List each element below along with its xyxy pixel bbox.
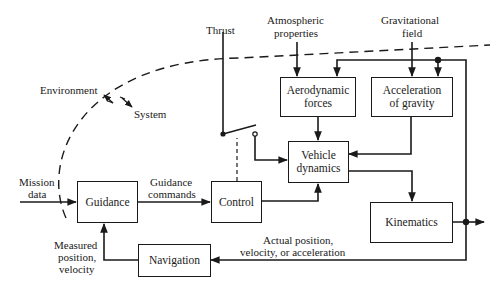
guidance-block-label: Guidance — [85, 196, 129, 209]
atmospheric-label-2: properties — [274, 27, 318, 40]
guidance-commands-label-1: Guidance — [150, 176, 192, 189]
mission-label-1: Mission — [19, 176, 54, 189]
system-arrow — [122, 98, 132, 107]
measured-state-arrow — [104, 224, 138, 260]
aerodynamic-forces-block: Aerodynamic forces — [280, 77, 356, 117]
gravity-to-vehicle-arrow — [349, 117, 411, 154]
mission-label-2: data — [28, 188, 46, 201]
vehicle-dynamics-block: Vehicle dynamics — [288, 141, 349, 183]
vehicle-to-kinematics-arrow — [348, 171, 412, 201]
control-block-label: Control — [219, 196, 254, 209]
thrust-to-vehicle-arrow — [255, 136, 287, 160]
gravitational-label-1: Gravitational — [381, 14, 439, 27]
kinematics-label: Kinematics — [385, 216, 437, 229]
environment-label: Environment — [40, 84, 97, 97]
navigation-block: Navigation — [138, 244, 211, 277]
control-to-vehicle-arrow — [262, 184, 318, 201]
actual-state-label-2: velocity, or acceleration — [240, 246, 345, 259]
control-block: Control — [211, 181, 262, 223]
measured-label-3: velocity — [59, 263, 94, 276]
acceleration-of-gravity-label: Acceleration of gravity — [378, 84, 446, 110]
actual-state-label-1: Actual position, — [263, 234, 333, 247]
gravitational-label-2: field — [402, 27, 422, 40]
atmospheric-label-1: Atmospheric — [267, 14, 324, 27]
guidance-block: Guidance — [77, 181, 138, 223]
navigation-block-label: Navigation — [149, 254, 200, 267]
acceleration-of-gravity-block: Acceleration of gravity — [371, 77, 453, 117]
vehicle-dynamics-label: Vehicle dynamics — [293, 149, 344, 175]
measured-label-1: Measured — [54, 239, 97, 252]
system-label: System — [134, 108, 166, 121]
aerodynamic-forces-label: Aerodynamic forces — [287, 84, 350, 110]
measured-label-2: position, — [58, 251, 96, 264]
kinematics-block: Kinematics — [370, 202, 453, 243]
guidance-commands-label-2: commands — [148, 188, 196, 201]
thrust-label: Thrust — [206, 24, 235, 37]
thrust-switch — [223, 125, 256, 134]
